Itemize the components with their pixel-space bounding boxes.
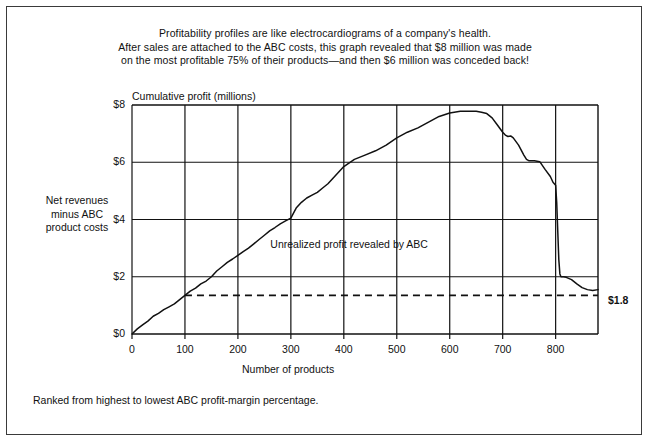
x-tick-label: 800 (536, 343, 576, 355)
y-tick-label: $2 (99, 270, 125, 282)
y-tick-label: $0 (99, 327, 125, 339)
plot-annotation: Unrealized profit revealed by ABC (270, 238, 428, 250)
x-tick-label: 700 (483, 343, 523, 355)
x-tick-label: 200 (218, 343, 258, 355)
x-tick-label: 400 (324, 343, 364, 355)
data-line-cumulative-profit (132, 111, 598, 334)
figure-frame: Profitability profiles are like electroc… (6, 6, 642, 435)
y-tick-label: $8 (99, 98, 125, 110)
x-tick-label: 0 (112, 343, 152, 355)
y-tick-label: $6 (99, 155, 125, 167)
x-tick-label: 100 (165, 343, 205, 355)
x-tick-label: 500 (377, 343, 417, 355)
x-tick-label: 600 (430, 343, 470, 355)
y-tick-label: $4 (99, 213, 125, 225)
x-tick-label: 300 (271, 343, 311, 355)
